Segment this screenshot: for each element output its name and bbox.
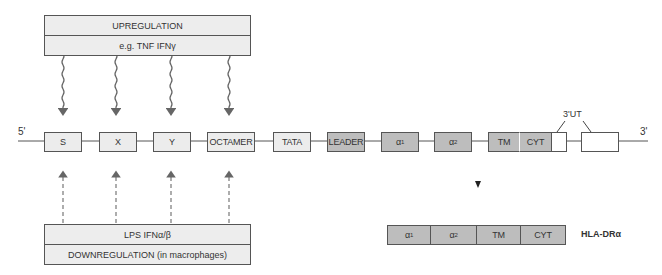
element-octamer: OCTAMER <box>207 132 255 152</box>
five-prime-label: 5' <box>18 126 25 137</box>
element-tata: TATA <box>273 132 311 152</box>
utr-small-box <box>551 132 567 152</box>
downregulation-arrows <box>63 174 229 223</box>
element-x: X <box>99 132 137 152</box>
downregulation-box: LPS IFNα/β DOWNREGULATION (in macrophage… <box>44 224 251 265</box>
downregulation-factors: LPS IFNα/β <box>45 225 250 244</box>
utr-large-box <box>581 132 619 152</box>
protein-tm: TM <box>477 226 521 244</box>
upregulation-arrows <box>62 53 230 112</box>
utr-label: 3'UT <box>563 109 582 119</box>
down-triangle-icon <box>475 181 481 188</box>
exon-alpha1: α1 <box>381 132 419 152</box>
upregulation-factors: e.g. TNF IFNγ <box>45 35 250 55</box>
protein-bar: α1 α2 TM CYT <box>387 225 566 245</box>
exon-cyt: CYT <box>520 132 552 152</box>
element-y: Y <box>153 132 191 152</box>
protein-cyt: CYT <box>521 226 565 244</box>
downregulation-title: DOWNREGULATION (in macrophages) <box>45 244 250 264</box>
exon-tm: TM <box>488 132 520 152</box>
three-prime-label: 3' <box>640 126 647 137</box>
exon-leader: LEADER <box>327 132 365 152</box>
protein-name: HLA-DRα <box>581 229 621 239</box>
upregulation-box: UPREGULATION e.g. TNF IFNγ <box>44 15 251 56</box>
exon-alpha2: α2 <box>434 132 472 152</box>
protein-alpha2: α2 <box>431 226 477 244</box>
element-s: S <box>44 132 82 152</box>
upregulation-title: UPREGULATION <box>45 16 250 35</box>
protein-alpha1: α1 <box>388 226 431 244</box>
